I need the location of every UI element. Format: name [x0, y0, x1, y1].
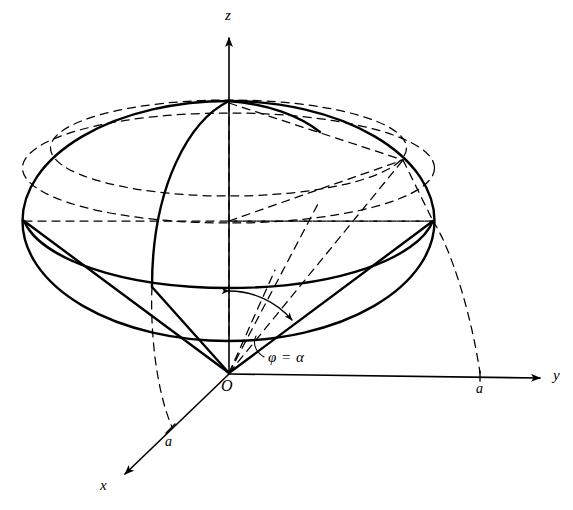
origin-label: O — [221, 378, 233, 394]
meridian-arc-to-a-on-y — [433, 221, 480, 373]
y-axis — [229, 374, 540, 378]
x-axis-label: x — [100, 478, 107, 493]
figure-canvas: z y x O a a φ = α — [0, 0, 573, 510]
radius-line-1 — [229, 160, 403, 221]
x-axis-tick-a — [166, 424, 175, 433]
angle-arc-phi-alpha — [229, 291, 292, 320]
meridian-arc-phi-alpha — [152, 101, 229, 287]
geometry-svg — [0, 0, 573, 510]
hidden-construction-lines — [23, 100, 481, 427]
angle-label: φ = α — [268, 350, 304, 365]
cone-generator-front — [152, 287, 229, 373]
y-axis-label: y — [553, 368, 560, 383]
cone-generator-left — [24, 221, 229, 373]
z-axis-label: z — [225, 8, 231, 23]
x-axis — [125, 374, 229, 474]
radius-label-x: a — [165, 435, 172, 449]
meridian-arc-to-a-on-x — [152, 287, 172, 427]
radius-label-y: a — [476, 382, 483, 396]
